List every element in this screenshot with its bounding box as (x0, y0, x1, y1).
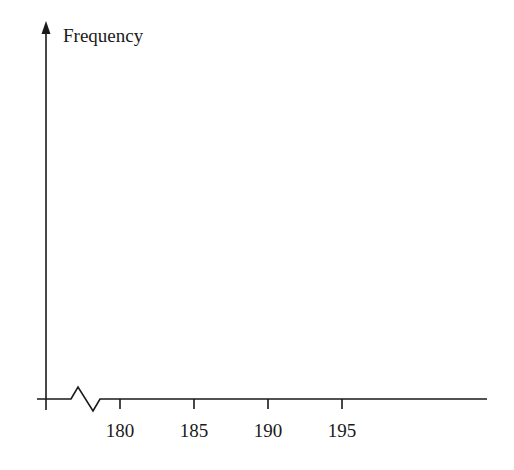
y-axis-label: Frequency (63, 26, 143, 45)
x-tick-label-195: 195 (328, 421, 357, 440)
x-tick-label-185: 185 (180, 421, 209, 440)
x-axis-with-break (37, 387, 487, 411)
x-tick-label-190: 190 (254, 421, 283, 440)
axes-svg (0, 0, 514, 470)
y-axis-arrow-icon (42, 21, 51, 34)
x-tick-label-180: 180 (106, 421, 135, 440)
histogram-axes: Frequency 180 185 190 195 (0, 0, 514, 470)
x-ticks (120, 399, 342, 409)
